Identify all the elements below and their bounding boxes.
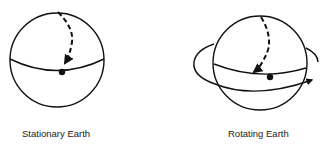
rotating-earth-label: Rotating Earth bbox=[228, 128, 289, 139]
target-dot bbox=[267, 74, 273, 80]
rotation-ring-back bbox=[194, 44, 215, 84]
stationary-earth-figure bbox=[10, 12, 104, 107]
sphere-outline bbox=[213, 16, 307, 110]
sphere-outline bbox=[10, 13, 104, 107]
target-dot bbox=[59, 69, 65, 75]
deflection-path-dashed bbox=[254, 17, 269, 72]
deflection-path-dashed bbox=[58, 12, 72, 63]
rotation-ring-front bbox=[215, 80, 312, 91]
stationary-earth-label: Stationary Earth bbox=[22, 128, 90, 139]
rotation-ring-right bbox=[306, 48, 318, 62]
rotating-earth-figure bbox=[194, 16, 318, 110]
equator-arc bbox=[10, 59, 104, 71]
